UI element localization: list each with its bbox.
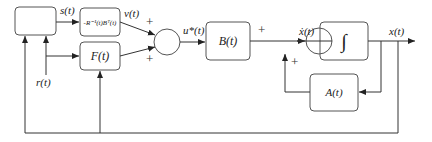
signal-x-label: x(t) bbox=[388, 25, 405, 38]
state-matrix-label: A(t) bbox=[324, 86, 342, 99]
signal-r-label: r(t) bbox=[36, 76, 51, 89]
plus-sign: + bbox=[291, 54, 298, 69]
diagram-canvas: s(t) -R⁻¹(t)Bᵀ(t) v(t) + + F(t) r(t) u*(… bbox=[0, 0, 432, 142]
signal-xdot-label: ẋ(t) bbox=[298, 25, 315, 38]
plus-sign: + bbox=[146, 14, 153, 29]
gain-block-label: -R⁻¹(t)Bᵀ(t) bbox=[84, 19, 118, 27]
plus-sign: + bbox=[146, 51, 153, 66]
signal-s-label: s(t) bbox=[60, 4, 75, 17]
signal-u-label: u*(t) bbox=[183, 24, 205, 37]
signal-v-label: v(t) bbox=[124, 7, 140, 20]
unlabeled-block bbox=[15, 7, 56, 35]
feedforward-label: F(t) bbox=[90, 49, 110, 63]
summing-junction-1 bbox=[154, 29, 180, 55]
plus-sign: + bbox=[258, 22, 265, 37]
integrator-label: ∫ bbox=[339, 30, 348, 54]
block-diagram: s(t) -R⁻¹(t)Bᵀ(t) v(t) + + F(t) r(t) u*(… bbox=[0, 0, 432, 142]
input-matrix-label: B(t) bbox=[219, 34, 238, 48]
